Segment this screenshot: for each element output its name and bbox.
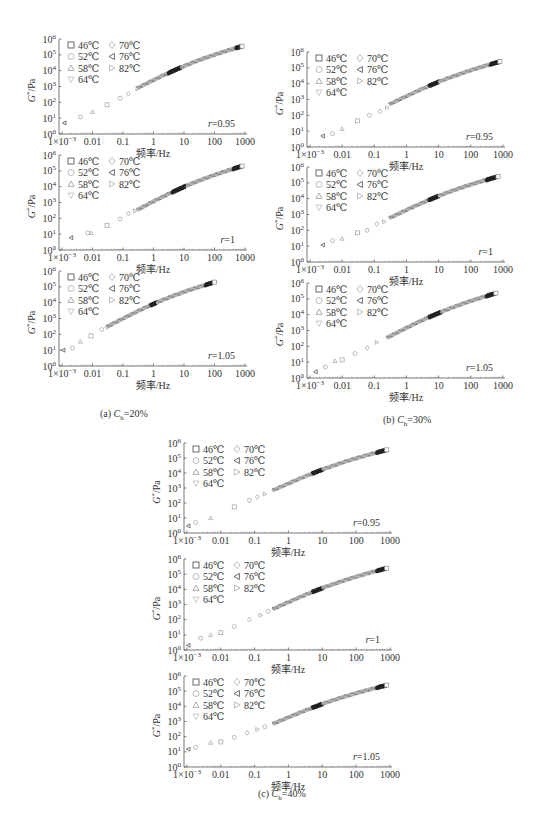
caption-c: (c) Ch=40% (258, 788, 306, 802)
legend-label: 82℃ (119, 63, 140, 74)
legend-label: 70℃ (119, 272, 140, 283)
y-tick-label: 105 (291, 61, 305, 73)
y-tick-label: 102 (168, 497, 182, 509)
data-curve (272, 683, 388, 726)
data-curve (386, 291, 498, 340)
y-tick-label: 101 (43, 112, 57, 124)
legend-label: 82℃ (244, 700, 265, 711)
y-tick-label: 102 (43, 96, 57, 108)
legend-label: 52℃ (203, 688, 224, 699)
x-tick-label: 100 (207, 368, 222, 379)
legend-label: 46℃ (203, 560, 224, 571)
legend-label: 64℃ (78, 190, 99, 201)
legend-label: 64℃ (203, 711, 224, 722)
legend-label: 58℃ (203, 700, 224, 711)
y-tick-label: 102 (168, 730, 182, 742)
r-annotation: r=1.05 (466, 362, 493, 373)
legend-label: 58℃ (326, 307, 347, 318)
x-tick-label: 100 (349, 769, 364, 780)
x-tick-label: 10 (317, 769, 327, 780)
data-curve (272, 566, 388, 611)
x-tick-label: 1 (286, 652, 291, 663)
legend-label: 58℃ (78, 63, 99, 74)
y-axis-label: G*/Pa (25, 78, 37, 102)
chart-panel-b3: 1001011021031041051061×10−30.010.1110100… (273, 277, 513, 404)
legend-label: 46℃ (78, 156, 99, 167)
y-tick-label: 104 (168, 467, 182, 479)
y-tick-label: 106 (168, 670, 182, 682)
x-tick-label: 0.1 (368, 380, 381, 391)
x-tick-label: 100 (463, 149, 478, 160)
x-tick-label: 1000 (235, 368, 255, 379)
y-tick-label: 103 (168, 715, 182, 727)
y-tick-label: 101 (291, 240, 305, 252)
y-tick-label: 104 (43, 296, 57, 308)
chart-panel-c3: 1001011021031041051061×10−30.010.1110100… (150, 670, 400, 793)
legend-label: 46℃ (78, 40, 99, 51)
y-tick-label: 102 (291, 340, 305, 352)
chart-panel-a1: 1001011021031041051061×10−30.010.1110100… (25, 33, 255, 160)
x-tick-label: 0.1 (368, 264, 381, 275)
x-tick-label: 0.1 (117, 368, 130, 379)
legend-label: 70℃ (367, 168, 388, 179)
y-tick-label: 106 (43, 149, 57, 161)
legend-label: 58℃ (78, 295, 99, 306)
y-tick-label: 105 (168, 568, 182, 580)
chart-panel-b1: 1001011021031041051061×10−30.010.1110100… (273, 46, 513, 173)
legend-label: 58℃ (78, 179, 99, 190)
y-tick-label: 101 (291, 125, 305, 137)
x-tick-label: 100 (207, 252, 222, 263)
y-tick-label: 102 (291, 224, 305, 236)
legend-label: 52℃ (326, 179, 347, 190)
y-axis-label: G*/Pa (273, 322, 285, 346)
y-tick-label: 104 (168, 700, 182, 712)
legend-label: 70℃ (244, 444, 265, 455)
caption-b: (b) Ch=30% (383, 414, 431, 428)
x-tick-label: 0.01 (333, 380, 351, 391)
y-tick-label: 105 (43, 48, 57, 60)
x-axis-label: 频率/Hz (389, 391, 424, 403)
x-tick-label: 10 (179, 252, 189, 263)
legend: 46℃52℃58℃64℃70℃76℃82℃ (193, 444, 265, 490)
x-tick-label: 1×10−3 (48, 251, 77, 263)
legend-label: 64℃ (326, 87, 347, 98)
r-annotation: r=1.05 (353, 751, 380, 762)
legend: 46℃52℃58℃64℃70℃76℃82℃ (316, 284, 388, 330)
x-tick-label: 100 (207, 136, 222, 147)
legend-label: 76℃ (119, 51, 140, 62)
legend-label: 64℃ (78, 306, 99, 317)
y-tick-label: 106 (291, 161, 305, 173)
legend-label: 76℃ (367, 295, 388, 306)
x-tick-label: 1000 (493, 380, 513, 391)
x-tick-label: 1×10−3 (173, 651, 202, 663)
x-tick-label: 1 (151, 252, 156, 263)
x-tick-label: 0.1 (368, 149, 381, 160)
x-tick-label: 1 (286, 769, 291, 780)
x-tick-label: 100 (463, 380, 478, 391)
y-tick-label: 102 (43, 328, 57, 340)
r-annotation: r=1.05 (208, 350, 235, 361)
legend-label: 82℃ (367, 307, 388, 318)
y-tick-label: 104 (291, 77, 305, 89)
y-tick-label: 104 (43, 180, 57, 192)
y-axis-label: G*/Pa (273, 91, 285, 115)
legend: 46℃52℃58℃64℃70℃76℃82℃ (316, 168, 388, 214)
legend-label: 76℃ (244, 455, 265, 466)
x-tick-label: 1000 (493, 149, 513, 160)
y-tick-label: 106 (43, 265, 57, 277)
chart-panel-c2: 1001011021031041051061×10−30.010.1110100… (150, 553, 400, 676)
chart-panel-a3: 1001011021031041051061×10−30.010.1110100… (25, 265, 255, 392)
x-axis-label: 频率/Hz (136, 147, 171, 159)
x-tick-label: 10 (317, 535, 327, 546)
x-tick-label: 1000 (380, 652, 400, 663)
r-annotation: r=1 (478, 246, 493, 257)
y-tick-label: 101 (168, 745, 182, 757)
y-tick-label: 106 (43, 33, 57, 45)
y-tick-label: 105 (168, 685, 182, 697)
legend-label: 64℃ (326, 202, 347, 213)
y-tick-label: 102 (291, 109, 305, 121)
y-tick-label: 103 (43, 196, 57, 208)
x-axis-label: 频率/Hz (389, 275, 424, 287)
legend-label: 82℃ (367, 76, 388, 87)
data-curve (388, 59, 501, 106)
